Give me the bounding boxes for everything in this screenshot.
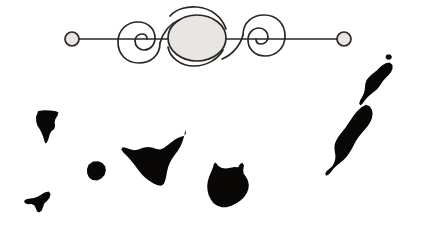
island-la-gomera — [87, 161, 106, 180]
island-lanzarote — [359, 62, 392, 105]
island-gran-canaria — [207, 162, 249, 207]
island-group — [24, 54, 393, 212]
island-tenerife — [121, 130, 186, 186]
island-fuerteventura — [325, 105, 372, 176]
canary-islands-map — [0, 0, 427, 227]
map-illustration-page: Canary Islands — [0, 0, 427, 227]
island-la-graciosa — [386, 54, 392, 59]
island-la-palma — [36, 110, 58, 143]
island-el-hierro — [24, 191, 51, 212]
